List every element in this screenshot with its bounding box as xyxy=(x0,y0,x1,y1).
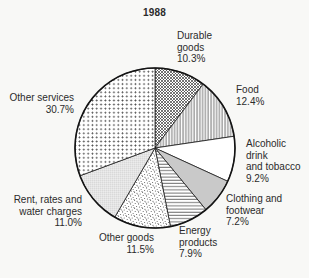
pie-chart-figure: 1988 xyxy=(0,0,309,278)
slice-label-other-services: Other services 30.7% xyxy=(10,92,74,115)
slice-label-alcoholic-drink-and-tobacco: Alcoholic drink and tobacco 9.2% xyxy=(246,138,301,184)
pie-slices-group xyxy=(75,68,235,228)
slice-label-other-goods: Other goods 11.5% xyxy=(99,232,154,255)
slice-label-clothing-and-footwear: Clothing and footwear 7.2% xyxy=(226,193,282,228)
slice-label-rent-rates-and-water-charges: Rent, rates and water charges 11.0% xyxy=(14,194,82,229)
slice-label-food: Food 12.4% xyxy=(236,84,264,107)
slice-label-durable-goods: Durable goods 10.3% xyxy=(177,30,212,65)
slice-label-energy-products: Energy products 7.9% xyxy=(179,225,217,260)
